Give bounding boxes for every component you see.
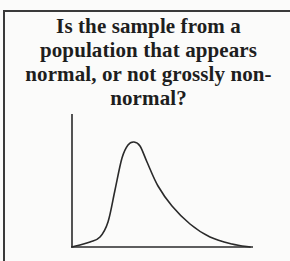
distribution-chart — [0, 0, 290, 261]
skewed-density-curve — [72, 142, 250, 247]
